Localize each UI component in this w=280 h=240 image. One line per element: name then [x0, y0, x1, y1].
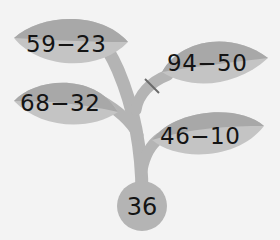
plant-diagram: 59−23 94−50 68−32 46−10 36 [0, 0, 280, 240]
stem [100, 40, 168, 195]
leaf-top-left-expression: 59−23 [26, 33, 106, 56]
root-value: 36 [117, 195, 167, 219]
leaf-middle-left-expression: 68−32 [20, 92, 100, 115]
leaf-bottom-right-expression: 46−10 [160, 125, 240, 148]
leaf-top-right-expression: 94−50 [167, 52, 247, 75]
